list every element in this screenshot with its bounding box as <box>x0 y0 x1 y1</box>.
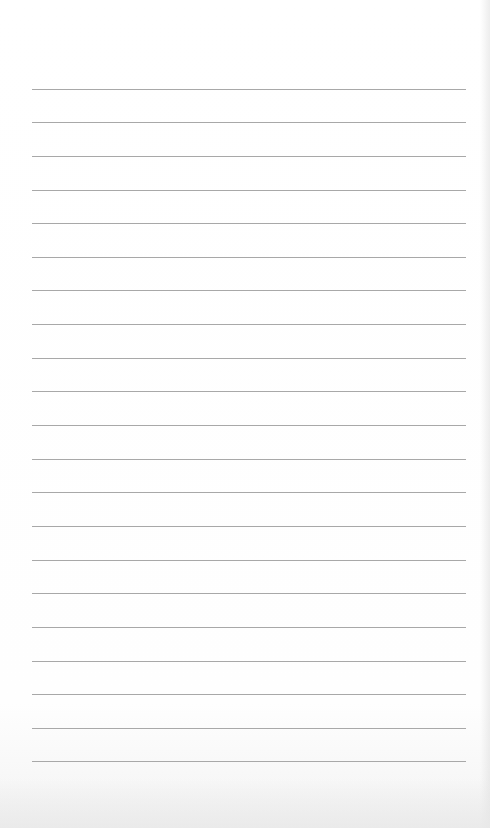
ruled-line <box>32 492 466 493</box>
ruled-line <box>32 425 466 426</box>
ruled-line <box>32 223 466 224</box>
ruled-line <box>32 89 466 90</box>
ruled-line <box>32 358 466 359</box>
ruled-line <box>32 190 466 191</box>
ruled-line <box>32 290 466 291</box>
ruled-line <box>32 694 466 695</box>
page-bottom-shading <box>0 778 490 828</box>
ruled-line <box>32 156 466 157</box>
lined-paper-page <box>0 0 490 828</box>
ruled-line <box>32 526 466 527</box>
ruled-line <box>32 459 466 460</box>
ruled-line <box>32 593 466 594</box>
page-edge-shadow <box>480 0 490 828</box>
ruled-line <box>32 391 466 392</box>
ruled-line <box>32 761 466 762</box>
ruled-line <box>32 122 466 123</box>
ruled-line <box>32 324 466 325</box>
ruled-line <box>32 728 466 729</box>
ruled-line <box>32 627 466 628</box>
ruled-line <box>32 661 466 662</box>
ruled-line <box>32 257 466 258</box>
ruled-line <box>32 560 466 561</box>
